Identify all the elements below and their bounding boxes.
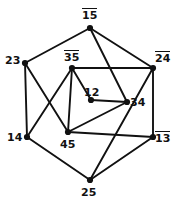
vertex-label-text: 12 — [84, 86, 99, 98]
graph-vertex-14 — [24, 134, 30, 140]
vertex-label-text: 14 — [7, 131, 22, 143]
vertex-label-25: 25 — [81, 186, 96, 198]
graph-vertex-35 — [69, 65, 75, 71]
graph-edge-v14-v23 — [25, 63, 27, 137]
vertex-label-text: 24 — [155, 51, 170, 64]
vertex-label-15: 15 — [82, 8, 97, 21]
graph-edge-v12-v34 — [91, 100, 127, 102]
vertex-label-text: 15 — [82, 8, 97, 21]
vertex-label-text: 25 — [81, 186, 96, 198]
graph-vertex-25 — [87, 177, 93, 183]
vertex-label-24: 24 — [155, 51, 170, 64]
vertex-label-45: 45 — [60, 138, 75, 150]
graph-edge-v25-v14 — [27, 137, 90, 180]
vertex-label-text: 35 — [64, 50, 79, 63]
vertex-label-text: 34 — [130, 96, 145, 108]
vertex-label-35: 35 — [64, 50, 79, 63]
graph-edge-v15-v23 — [25, 28, 90, 63]
graph-edge-v13-v25 — [90, 137, 153, 180]
graph-edge-v45-v35 — [68, 68, 72, 132]
vertex-label-14: 14 — [7, 131, 22, 143]
graph-vertex-45 — [65, 129, 71, 135]
graph-vertex-23 — [22, 60, 28, 66]
vertex-label-text: 13 — [155, 131, 170, 144]
graph-edge-v23-v45 — [25, 63, 68, 132]
graph-figure: 15241325142335123445 — [0, 0, 182, 206]
vertex-label-23: 23 — [5, 54, 20, 66]
vertex-label-34: 34 — [130, 96, 145, 108]
graph-vertex-15 — [87, 25, 93, 31]
vertex-label-12: 12 — [84, 86, 99, 98]
vertex-label-text: 45 — [60, 138, 75, 150]
vertex-label-13: 13 — [155, 131, 170, 144]
vertex-label-text: 23 — [5, 54, 20, 66]
graph-edge-v45-v13 — [68, 132, 153, 137]
graph-edge-v25-v24 — [90, 68, 153, 180]
graph-canvas — [0, 0, 182, 206]
graph-vertex-24 — [150, 65, 156, 71]
graph-edge-v34-v45 — [68, 102, 127, 132]
